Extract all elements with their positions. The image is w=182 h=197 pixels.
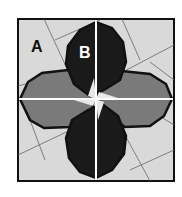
quilt-block-diagram: A B	[0, 0, 182, 197]
label-b: B	[79, 44, 91, 61]
label-a: A	[31, 38, 43, 55]
